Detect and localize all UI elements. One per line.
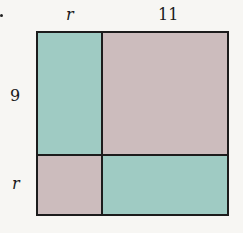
bullet-mark xyxy=(0,14,3,17)
square-diagram xyxy=(36,31,229,216)
label-left-9: 9 xyxy=(10,88,20,104)
region-bottom-right xyxy=(103,156,227,214)
label-top-11: 11 xyxy=(158,7,178,23)
region-bottom-left xyxy=(38,156,101,214)
region-top-left xyxy=(38,33,101,154)
horizontal-divider xyxy=(38,154,227,156)
region-top-right xyxy=(103,33,227,154)
label-left-r: r xyxy=(12,176,20,192)
label-top-r: r xyxy=(66,7,74,23)
vertical-divider xyxy=(101,33,103,214)
